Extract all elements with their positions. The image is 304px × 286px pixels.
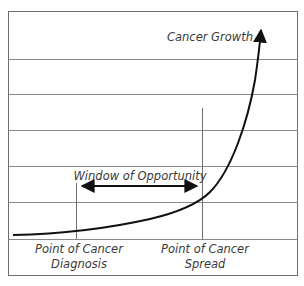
- diagnosis-label-line2: Diagnosis: [51, 257, 107, 271]
- curve-label: Cancer Growth: [167, 30, 253, 44]
- spread-label-line2: Spread: [185, 257, 226, 271]
- growth-curve: [13, 30, 261, 235]
- outer-frame: [9, 12, 298, 276]
- cancer-growth-diagram: Cancer Growth Window of Opportunity Poin…: [0, 0, 304, 286]
- diagnosis-label-line1: Point of Cancer: [35, 242, 124, 256]
- window-label: Window of Opportunity: [73, 169, 206, 183]
- spread-label-line1: Point of Cancer: [161, 242, 250, 256]
